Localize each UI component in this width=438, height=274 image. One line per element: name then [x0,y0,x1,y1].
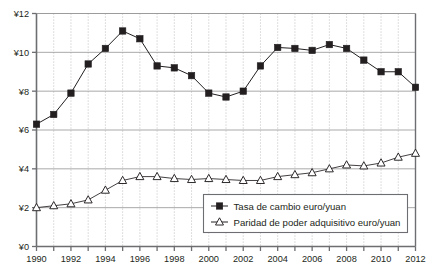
legend-item-2: Paridad de poder adquisitivo euro/yuan [211,217,400,228]
x-axis-tick-label: 2008 [336,254,356,264]
data-point-marker [361,57,367,63]
x-axis-tick-label: 2006 [302,254,322,264]
x-axis-tick-label: 2002 [233,254,253,264]
y-axis-tick-label: ¥12 [13,9,29,19]
x-axis-tick-label: 2010 [371,254,391,264]
legend-item-label: Paridad de poder adquisitivo euro/yuan [234,217,401,228]
data-point-marker [343,45,349,51]
data-point-marker [223,94,229,100]
y-axis-tick-label: ¥10 [13,48,29,58]
x-axis-tick-label: 2004 [267,254,287,264]
data-point-marker [326,41,332,47]
y-axis-tick-label: ¥6 [18,125,29,135]
data-point-marker [33,121,39,127]
data-point-marker [102,45,108,51]
data-point-marker [216,203,222,209]
x-axis-tick-label: 2000 [199,254,219,264]
x-axis-tick-label: 1994 [95,254,115,264]
data-point-marker [171,65,177,71]
y-axis-tick-label: ¥8 [18,87,29,97]
data-point-marker [206,90,212,96]
chart-legend: Tasa de cambio euro/yuanParidad de poder… [204,195,408,233]
data-point-marker [68,90,74,96]
data-point-marker [292,45,298,51]
data-point-marker [240,88,246,94]
y-axis-tick-label: ¥0 [18,242,29,252]
line-chart: ¥0¥2¥4¥6¥8¥10¥12 19901992199419961998200… [0,0,438,274]
x-axis-tick-label: 1990 [26,254,46,264]
x-axis-tick-label: 1998 [164,254,184,264]
y-axis-tick-label: ¥2 [18,203,29,213]
x-axis-tick-label: 1996 [130,254,150,264]
legend-item-label: Tasa de cambio euro/yuan [234,201,347,212]
data-point-marker [188,72,194,78]
data-point-marker [309,47,315,53]
data-point-marker [51,111,57,117]
data-point-marker [119,28,125,34]
data-point-marker [378,69,384,75]
x-axis-tick-label: 1992 [61,254,81,264]
data-point-marker [85,61,91,67]
chart-container: ¥0¥2¥4¥6¥8¥10¥12 19901992199419961998200… [0,0,438,274]
data-point-marker [257,63,263,69]
data-point-marker [395,69,401,75]
data-point-marker [274,44,280,50]
data-point-marker [412,84,418,90]
x-axis-tick-label: 2012 [405,254,425,264]
y-axis-tick-label: ¥4 [18,164,29,174]
data-point-marker [137,36,143,42]
data-point-marker [154,63,160,69]
